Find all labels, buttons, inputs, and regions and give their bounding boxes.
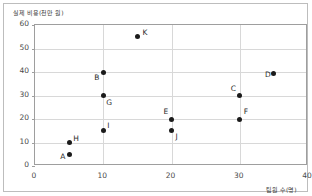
x-tick-label: 10	[90, 171, 114, 180]
data-point[interactable]	[237, 93, 242, 98]
data-point-label: C	[231, 84, 236, 93]
y-tick-label: 10	[9, 137, 29, 146]
data-point[interactable]	[67, 152, 72, 157]
data-point[interactable]	[67, 140, 72, 145]
y-tick-mark	[32, 72, 35, 73]
data-point-label: I	[107, 121, 109, 130]
y-tick-mark	[32, 166, 35, 167]
data-point-label: H	[73, 134, 79, 143]
data-point[interactable]	[101, 70, 106, 75]
x-tick-label: 30	[227, 171, 251, 180]
data-point[interactable]	[169, 117, 174, 122]
data-point-label: A	[60, 152, 65, 161]
gridline-horizontal	[35, 49, 306, 50]
y-tick-label: 20	[9, 113, 29, 122]
y-axis-title: 실제 비용(천만 원)	[13, 8, 64, 17]
data-point[interactable]	[101, 128, 106, 133]
data-point[interactable]	[101, 93, 106, 98]
data-point[interactable]	[169, 128, 174, 133]
data-point-label: F	[244, 107, 248, 116]
y-tick-mark	[32, 96, 35, 97]
data-point-label: B	[94, 73, 99, 82]
y-tick-label: 50	[9, 43, 29, 52]
plot-area: AHIGBKJEFCD	[34, 24, 307, 165]
y-tick-label: 0	[9, 160, 29, 169]
chart-frame: 실제 비용(천만 원) 팀원 수(명) AHIGBKJEFCD 01020304…	[3, 3, 308, 192]
y-tick-mark	[32, 25, 35, 26]
data-point-label: K	[142, 28, 147, 37]
data-point-label: E	[164, 107, 169, 116]
y-tick-label: 30	[9, 90, 29, 99]
y-tick-label: 40	[9, 66, 29, 75]
x-tick-label: 20	[159, 171, 183, 180]
data-point-label: J	[176, 132, 178, 141]
data-point[interactable]	[271, 71, 276, 76]
data-point[interactable]	[135, 34, 140, 39]
data-point[interactable]	[237, 117, 242, 122]
gridline-horizontal	[35, 143, 306, 144]
y-tick-label: 60	[9, 19, 29, 28]
y-tick-mark	[32, 143, 35, 144]
gridline-horizontal	[35, 96, 306, 97]
data-point-label: G	[106, 98, 112, 107]
y-tick-mark	[32, 49, 35, 50]
data-point-label: D	[265, 70, 271, 79]
x-axis-title: 팀원 수(명)	[266, 185, 297, 194]
gridline-vertical	[172, 25, 173, 164]
x-tick-label: 0	[22, 171, 46, 180]
x-tick-label: 40	[295, 171, 312, 180]
y-tick-mark	[32, 119, 35, 120]
